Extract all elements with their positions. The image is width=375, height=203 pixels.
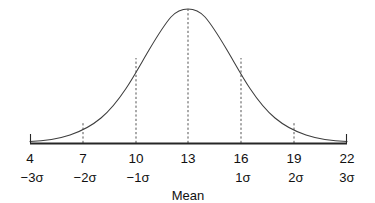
- sigma-label-minus-2: −2σ: [74, 171, 97, 184]
- normal-curve-plot: [0, 0, 375, 203]
- tick-number-4: 4: [26, 152, 34, 166]
- sigma-label-plus-3: 3σ: [339, 171, 354, 184]
- tick-number-7: 7: [79, 152, 87, 166]
- tick-number-10: 10: [128, 152, 143, 166]
- mean-axis-label: Mean: [172, 189, 205, 202]
- sigma-label-plus-2: 2σ: [288, 171, 303, 184]
- tick-number-16: 16: [233, 152, 248, 166]
- tick-number-22: 22: [339, 152, 354, 166]
- sigma-label-minus-3: −3σ: [21, 171, 44, 184]
- bell-curve-path: [30, 9, 347, 142]
- tick-number-19: 19: [286, 152, 301, 166]
- tick-number-13: 13: [180, 152, 195, 166]
- sigma-label-plus-1: 1σ: [235, 171, 250, 184]
- sigma-label-minus-1: −1σ: [127, 171, 150, 184]
- bell-curve-figure: 4 7 10 13 16 19 22 −3σ −2σ −1σ 1σ 2σ 3σ …: [0, 0, 375, 203]
